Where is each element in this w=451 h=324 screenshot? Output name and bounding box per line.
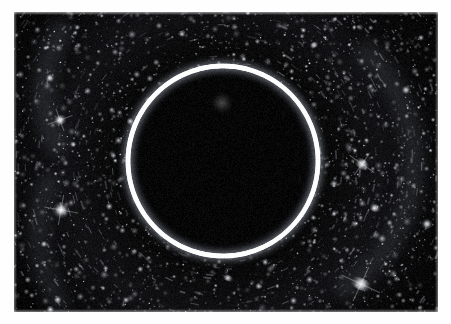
astronomical-photograph <box>14 12 438 312</box>
image-page <box>0 0 451 324</box>
starfield-canvas <box>14 12 438 312</box>
